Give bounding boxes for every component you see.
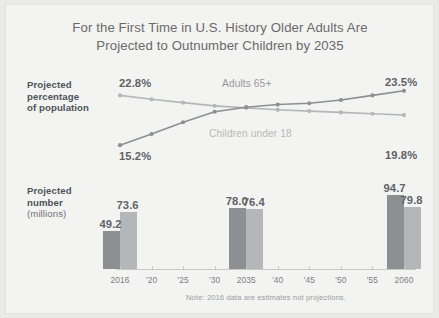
axis-tick-label-25: '25 [178, 275, 189, 285]
axis-tick [309, 266, 310, 270]
axis-tick-label-30: '30 [209, 275, 220, 285]
axis-tick [341, 266, 342, 270]
page-title: For the First Time in U.S. History Older… [40, 19, 400, 54]
bar-adults-2016 [103, 231, 120, 269]
data-point [149, 97, 153, 101]
bar-group-2035 [229, 208, 263, 269]
axis-tick-label-50: '50 [335, 275, 346, 285]
axis-tick-label-55: '55 [367, 275, 378, 285]
data-point [149, 132, 153, 136]
value-adults-start: 15.2% [119, 150, 151, 162]
axis-tick [152, 266, 153, 270]
number-label-line-2: number [27, 197, 63, 208]
time-axis: 2016'20'25'302035'40'45'50'552060 [116, 269, 416, 291]
title-line-2: Projected to Outnumber Children by 2035 [40, 37, 400, 55]
axis-tick-label-45: '45 [304, 275, 315, 285]
bar-children-2035 [246, 209, 263, 269]
bar-children-2060 [404, 207, 421, 269]
percentage-label-line-2: percentage [27, 91, 79, 102]
bar-value-adults-2016: 49.2 [100, 218, 122, 230]
data-point [402, 89, 406, 93]
value-adults-end: 23.5% [385, 76, 417, 88]
bar-group-2060 [387, 195, 421, 269]
bar-chart: 49.273.678.076.494.779.8 [116, 183, 416, 269]
axis-tick-label-2016: 2016 [110, 275, 129, 285]
data-point [276, 108, 280, 112]
axis-tick [215, 266, 216, 270]
number-label-line-3: (millions) [27, 208, 66, 219]
axis-tick [120, 266, 121, 270]
data-point [339, 110, 343, 114]
data-point [118, 143, 122, 147]
bar-value-children-2035: 76.4 [243, 196, 265, 208]
data-point [370, 93, 374, 97]
axis-tick-label-2060: 2060 [394, 275, 413, 285]
axis-line [116, 269, 416, 270]
axis-tick-label-2035: 2035 [237, 275, 256, 285]
axis-tick [183, 266, 184, 270]
data-point [181, 120, 185, 124]
percentage-section-label: Projected percentage of population [27, 79, 119, 114]
footnote: Note: 2016 data are estimates not projec… [116, 293, 416, 302]
axis-tick [278, 266, 279, 270]
data-point [213, 104, 217, 108]
value-children-start: 22.8% [119, 77, 151, 89]
axis-tick-label-40: '40 [272, 275, 283, 285]
bar-value-children-2016: 73.6 [117, 199, 139, 211]
data-point [276, 102, 280, 106]
infographic-card: For the First Time in U.S. History Older… [6, 5, 433, 313]
data-point [370, 112, 374, 116]
number-label-line-1: Projected [27, 185, 72, 196]
percentage-label-line-3: of population [27, 102, 89, 113]
value-children-end: 19.8% [385, 149, 417, 161]
bar-adults-2060 [387, 195, 404, 269]
data-point [307, 101, 311, 105]
bar-value-children-2060: 79.8 [401, 194, 423, 206]
bar-value-adults-2060: 94.7 [384, 182, 406, 194]
axis-tick [372, 266, 373, 270]
axis-tick-label-20: '20 [146, 275, 157, 285]
series-label-children: Children under 18 [209, 128, 292, 139]
title-line-1: For the First Time in U.S. History Older… [40, 19, 400, 37]
axis-tick [246, 266, 247, 270]
data-point [181, 101, 185, 105]
data-point [339, 98, 343, 102]
series-label-adults: Adults 65+ [222, 78, 271, 89]
data-point [402, 113, 406, 117]
axis-tick [404, 266, 405, 270]
data-point [118, 93, 122, 97]
data-point [244, 105, 248, 109]
data-point [307, 109, 311, 113]
percentage-label-line-1: Projected [27, 79, 72, 90]
data-point [213, 110, 217, 114]
bar-children-2016 [120, 212, 137, 269]
bar-adults-2035 [229, 208, 246, 269]
